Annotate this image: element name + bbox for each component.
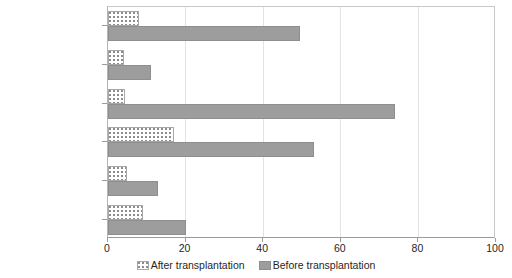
legend-label-before: Before transplantation bbox=[273, 259, 376, 271]
bar-after-transplantation bbox=[108, 166, 127, 181]
plot-area bbox=[107, 6, 495, 238]
legend-entry-before: Before transplantation bbox=[259, 259, 376, 271]
bar-after-transplantation bbox=[108, 127, 174, 142]
bar-before-transplantation bbox=[108, 26, 300, 41]
bar-after-transplantation bbox=[108, 50, 124, 65]
x-axis-tick-label: 0 bbox=[104, 243, 110, 254]
y-axis-tick bbox=[102, 25, 107, 26]
legend-label-after: After transplantation bbox=[151, 259, 245, 271]
x-axis-tick-label: 40 bbox=[256, 243, 268, 254]
legend-swatch-before-icon bbox=[259, 261, 271, 270]
chart-legend: After transplantation Before transplanta… bbox=[0, 259, 512, 271]
bar-group bbox=[108, 89, 494, 119]
legend-entry-after: After transplantation bbox=[137, 259, 245, 271]
bar-before-transplantation bbox=[108, 142, 314, 157]
bar-before-transplantation bbox=[108, 220, 186, 235]
bar-group bbox=[108, 166, 494, 196]
bar-after-transplantation bbox=[108, 11, 139, 26]
y-axis-tick bbox=[102, 141, 107, 142]
y-axis-tick bbox=[102, 219, 107, 220]
bar-group bbox=[108, 11, 494, 41]
x-axis-tick-label: 80 bbox=[412, 243, 424, 254]
bar-group bbox=[108, 127, 494, 157]
x-axis-tick-label: 20 bbox=[179, 243, 191, 254]
x-axis-tick-label: 60 bbox=[334, 243, 346, 254]
legend-swatch-after-icon bbox=[137, 261, 149, 270]
y-axis-tick bbox=[102, 64, 107, 65]
bar-rows bbox=[108, 7, 494, 237]
bar-after-transplantation bbox=[108, 205, 143, 220]
bar-group bbox=[108, 205, 494, 235]
x-axis-tick-label: 100 bbox=[486, 243, 504, 254]
bar-group bbox=[108, 50, 494, 80]
bar-before-transplantation bbox=[108, 104, 395, 119]
bar-chart: MobilityPainEnergySleepSocial isolationE… bbox=[0, 0, 512, 278]
y-axis-tick bbox=[102, 180, 107, 181]
bar-before-transplantation bbox=[108, 65, 151, 80]
y-axis-tick bbox=[102, 103, 107, 104]
bar-before-transplantation bbox=[108, 181, 158, 196]
bar-after-transplantation bbox=[108, 89, 125, 104]
